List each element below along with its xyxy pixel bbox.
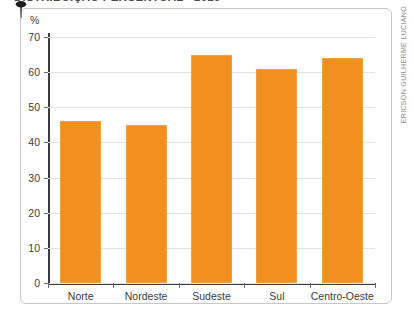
bar-sudeste [191,55,232,283]
x-axis-tick-mark [48,283,49,288]
x-axis-tick-mark [310,283,311,288]
x-axis-tick-mark [179,283,180,288]
bar-centro-oeste [322,58,363,283]
x-axis-tick-mark [244,283,245,288]
y-axis-tick-label: 20 [14,207,40,219]
y-axis-tick-label: 10 [14,242,40,254]
bar-norte [60,121,101,283]
y-axis-tick-label: 30 [14,172,40,184]
y-axis-tick-label: 70 [14,31,40,43]
x-axis-tick-label: Centro-Oeste [311,290,374,302]
y-axis-unit-label: % [30,14,39,26]
bar-sul [256,69,297,283]
x-axis-tick-label: Norte [68,290,94,302]
credit-text: ERICSON GUILHERME LUCIANO [400,6,407,123]
plot-area [48,30,375,284]
pin-marker-icon [14,1,28,19]
x-axis-tick-label: Sul [269,290,284,302]
x-axis-tick-mark [113,283,114,288]
x-axis-tick-label: Sudeste [192,290,231,302]
y-axis-tick-label: 50 [14,101,40,113]
y-axis-tick-label: 0 [14,277,40,289]
y-axis-tick-label: 60 [14,66,40,78]
page-title: DISTRIBUIÇÃO PERCENTUAL - 2010 [14,0,220,3]
x-axis-tick-label: Nordeste [125,290,168,302]
y-axis-tick-label: 40 [14,136,40,148]
credit-watermark: ERICSON GUILHERME LUCIANO [395,6,411,126]
bar-nordeste [126,125,167,283]
x-axis-tick-mark [375,283,376,288]
